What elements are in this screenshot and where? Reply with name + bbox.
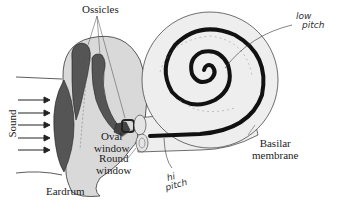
ossicles-label: Ossicles	[82, 4, 119, 15]
oval-window-end	[134, 115, 146, 135]
oval-window-label-line1: Oval	[94, 130, 129, 142]
cochlea-spiral	[142, 12, 278, 148]
sound-arrows	[18, 97, 50, 153]
round-window-label-line2: window	[96, 164, 131, 176]
low-pitch-annotation: low pitch	[296, 12, 324, 30]
low-pitch-line2: pitch	[302, 21, 324, 30]
basilar-membrane-label: Basilar membrane	[252, 137, 298, 161]
round-window-end	[136, 134, 148, 152]
basilar-membrane-label-line2: membrane	[252, 149, 298, 161]
basilar-membrane-label-line1: Basilar	[252, 137, 298, 149]
round-window-label-line1: Round	[96, 152, 131, 164]
eardrum-label: Eardrum	[46, 186, 84, 197]
round-window-label: Round window	[96, 152, 131, 176]
sound-label: Sound	[7, 104, 18, 144]
oval-window-label: Oval window	[94, 130, 129, 154]
